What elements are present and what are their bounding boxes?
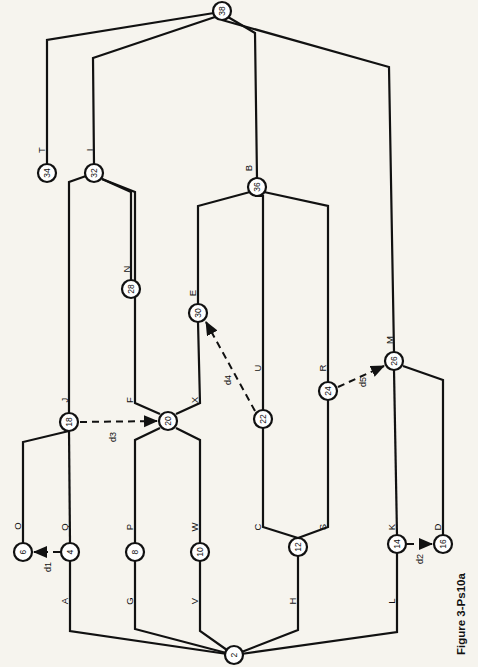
activity-edge-K: [394, 370, 397, 535]
activity-labels-layer: AOQGPVWHCSLKDFXJNEURMBITd1d2d3d4d5: [12, 147, 443, 605]
activity-label-S: S: [317, 524, 328, 530]
activity-edge-R: [264, 192, 328, 382]
activity-edge-U: [257, 196, 263, 410]
activity-edge-T: [47, 13, 214, 164]
node-label-10: 10: [195, 547, 205, 557]
activity-label-T: T: [36, 147, 47, 153]
node-label-28: 28: [126, 284, 136, 294]
activity-label-V: V: [189, 597, 200, 604]
node-label-4: 4: [65, 549, 75, 554]
dummy-label-d3: d3: [108, 432, 118, 442]
activity-label-E: E: [187, 290, 198, 296]
activity-edge-N: [102, 179, 131, 280]
activity-edge-L: [234, 553, 397, 655]
node-label-18: 18: [64, 417, 74, 427]
node-36[interactable]: 36: [248, 178, 266, 196]
node-12[interactable]: 12: [289, 538, 307, 556]
node-label-24: 24: [323, 386, 333, 396]
activity-label-R: R: [317, 364, 328, 371]
node-6[interactable]: 6: [14, 543, 32, 561]
nodes-layer: 2468101214161820222426283032343638: [14, 2, 452, 664]
activity-edge-H: [234, 556, 298, 655]
activity-edge-V: [200, 561, 234, 655]
activity-label-B: B: [243, 165, 254, 171]
activity-label-N: N: [121, 265, 132, 272]
node-label-12: 12: [293, 542, 303, 552]
activity-edge-S: [298, 400, 328, 538]
activity-label-I: I: [84, 149, 95, 152]
activity-label-L: L: [386, 598, 397, 603]
node-label-14: 14: [392, 539, 402, 549]
node-label-2: 2: [229, 652, 239, 657]
dummy-edge-d4: [206, 322, 255, 411]
node-32[interactable]: 32: [85, 164, 103, 182]
activity-label-K: K: [386, 523, 397, 530]
node-label-34: 34: [42, 168, 52, 178]
activity-label-F: F: [124, 397, 135, 403]
node-label-8: 8: [130, 549, 140, 554]
dummy-label-d4: d4: [223, 375, 233, 385]
activity-label-U: U: [252, 364, 263, 371]
node-label-20: 20: [163, 416, 173, 426]
dummy-label-d1: d1: [43, 562, 53, 572]
figure-caption: Figure 3-Ps10a: [455, 573, 467, 655]
activity-edge-I: [93, 17, 215, 164]
activity-edge-B: [228, 17, 257, 178]
node-label-22: 22: [258, 414, 268, 424]
activity-edge-D: [403, 366, 443, 535]
activity-label-G: G: [124, 597, 135, 604]
node-16[interactable]: 16: [434, 535, 452, 553]
node-8[interactable]: 8: [126, 543, 144, 561]
node-label-6: 6: [18, 549, 28, 554]
activity-label-O: O: [12, 522, 23, 529]
dummy-label-d5: d5: [358, 377, 368, 387]
node-14[interactable]: 14: [388, 535, 406, 553]
node-label-30: 30: [193, 308, 203, 318]
node-2[interactable]: 2: [225, 646, 243, 664]
dummy-label-d2: d2: [415, 554, 425, 564]
activity-edge-J: [69, 176, 86, 413]
activity-label-C: C: [252, 523, 263, 530]
node-10[interactable]: 10: [191, 543, 209, 561]
node-label-36: 36: [252, 182, 262, 192]
activity-label-X: X: [189, 396, 200, 403]
node-34[interactable]: 34: [38, 164, 56, 182]
activity-edge-C: [263, 428, 298, 538]
activity-edge-E: [198, 192, 250, 304]
activity-label-Q: Q: [59, 523, 70, 530]
edges-layer: [23, 13, 443, 655]
node-30[interactable]: 30: [189, 304, 207, 322]
figure-page: AOQGPVWHCSLKDFXJNEURMBITd1d2d3d4d5 24681…: [0, 0, 478, 667]
network-diagram: AOQGPVWHCSLKDFXJNEURMBITd1d2d3d4d5 24681…: [0, 0, 478, 667]
activity-label-H: H: [287, 597, 298, 604]
activity-label-M: M: [384, 336, 395, 344]
node-label-38: 38: [217, 6, 227, 16]
activity-label-J: J: [59, 397, 70, 402]
activity-label-P: P: [124, 524, 135, 530]
node-4[interactable]: 4: [61, 543, 79, 561]
node-label-32: 32: [89, 168, 99, 178]
dummy-edge-d3: [80, 421, 157, 422]
node-22[interactable]: 22: [254, 410, 272, 428]
node-18[interactable]: 18: [60, 413, 78, 431]
node-label-16: 16: [438, 539, 448, 549]
node-24[interactable]: 24: [319, 382, 337, 400]
node-38[interactable]: 38: [213, 2, 231, 20]
node-20[interactable]: 20: [159, 412, 177, 430]
activity-edge-P: [135, 428, 160, 543]
node-28[interactable]: 28: [122, 280, 140, 298]
node-label-26: 26: [389, 356, 399, 366]
activity-edge-G: [135, 561, 234, 655]
dummy-edges-layer: [34, 322, 432, 552]
activity-label-D: D: [432, 523, 443, 530]
node-26[interactable]: 26: [385, 352, 403, 370]
activity-label-A: A: [59, 597, 70, 604]
activity-edge-A: [70, 561, 234, 655]
activity-label-W: W: [189, 522, 200, 531]
